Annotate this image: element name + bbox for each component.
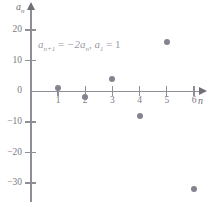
y-tick--10 <box>25 121 36 122</box>
formula-init-value: = 1 <box>106 38 120 50</box>
data-point <box>191 186 197 192</box>
formula-lhs-sub: n+1 <box>44 45 56 53</box>
y-tick-label-10: 10 <box>0 55 22 65</box>
data-point <box>109 76 115 82</box>
y-tick-10 <box>25 60 36 61</box>
x-tick-label-4: 4 <box>133 95 147 105</box>
y-axis-label: an <box>16 1 25 15</box>
y-tick-label-20: 20 <box>0 24 22 34</box>
x-tick-label-3: 3 <box>105 95 119 105</box>
y-axis-arrow-icon <box>27 2 35 10</box>
y-tick--20 <box>25 152 36 153</box>
y-tick-20 <box>25 29 36 30</box>
y-tick-label--30: −30 <box>0 177 22 187</box>
x-tick-label-5: 5 <box>160 95 174 105</box>
data-point <box>137 113 143 119</box>
scatter-plot: an n an+1 = −2an, a1 = 1 20100−10−20−30 … <box>0 0 209 207</box>
y-tick-label-0: 0 <box>0 85 22 95</box>
x-tick-label-6: 6 <box>187 95 201 105</box>
formula-init-sub: 1 <box>100 45 104 53</box>
formula-annotation: an+1 = −2an, a1 = 1 <box>38 38 121 53</box>
x-axis-arrow-icon <box>199 87 207 95</box>
formula-rhs: −2a <box>67 38 85 50</box>
y-axis-line <box>30 8 32 202</box>
y-tick-label--10: −10 <box>0 116 22 126</box>
y-tick--30 <box>25 182 36 183</box>
x-tick-label-1: 1 <box>51 95 65 105</box>
formula-equals: = <box>58 38 64 50</box>
data-point <box>164 39 170 45</box>
y-tick-label--20: −20 <box>0 147 22 157</box>
